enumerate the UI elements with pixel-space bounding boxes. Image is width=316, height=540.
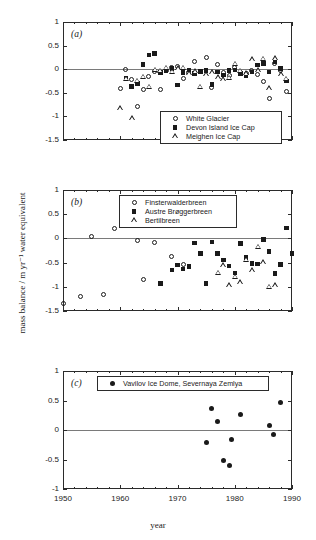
y-tick-mark: [63, 238, 67, 239]
x-tick-major: [292, 485, 293, 489]
legend-label: Bertilbreen: [145, 216, 180, 225]
triangle-marker: [249, 57, 255, 62]
filled-circle-marker: [227, 463, 232, 468]
y-tick-label: -1: [27, 485, 59, 493]
square-marker: [192, 241, 197, 246]
x-tick-minor: [74, 309, 75, 311]
y-tick-label: 0: [27, 426, 59, 434]
y-tick-mark: [63, 140, 67, 141]
legend-marker-filled-square-icon: [123, 207, 145, 216]
x-tick-minor-top: [212, 371, 213, 373]
x-tick-major: [235, 307, 236, 311]
x-tick-minor-top: [223, 190, 224, 192]
square-marker: [215, 251, 220, 256]
x-tick-minor: [97, 487, 98, 489]
triangle-marker: [232, 274, 238, 279]
x-tick-minor: [212, 309, 213, 311]
x-tick-major: [178, 485, 179, 489]
square-marker: [152, 51, 157, 56]
circle-marker: [135, 238, 140, 243]
x-tick-minor: [109, 487, 110, 489]
x-tick-major-top: [63, 371, 64, 375]
triangle-marker: [146, 84, 152, 89]
y-tick-label: 1: [27, 367, 59, 375]
x-tick-minor: [166, 487, 167, 489]
y-tick-mark-right: [288, 46, 292, 47]
legend-label: Devon Island Ice Cap: [186, 123, 255, 132]
square-marker: [227, 68, 232, 73]
x-tick-minor: [281, 309, 282, 311]
y-tick-mark: [63, 430, 67, 431]
panel-c-legend: Vavilov Ice Dome, Severnaya Zemlya: [97, 376, 269, 391]
x-tick-major-top: [292, 22, 293, 26]
panel-a-legend: White GlacierDevon Island Ice CapMeighen…: [160, 111, 282, 144]
x-tick-minor: [74, 138, 75, 140]
y-tick-mark: [63, 287, 67, 288]
x-tick-minor-top: [281, 22, 282, 24]
x-tick-major: [178, 307, 179, 311]
triangle-marker: [215, 270, 221, 275]
triangle-marker: [140, 74, 146, 79]
triangle-marker: [129, 116, 135, 121]
x-tick-minor: [281, 487, 282, 489]
square-marker: [210, 82, 215, 87]
y-tick-mark: [63, 311, 67, 312]
triangle-marker: [243, 257, 249, 262]
triangle-marker: [192, 69, 198, 74]
square-marker: [238, 241, 243, 246]
x-tick-major-top: [120, 371, 121, 375]
x-tick-minor-top: [258, 190, 259, 192]
square-marker: [250, 70, 255, 75]
square-marker: [261, 237, 266, 242]
square-marker: [267, 249, 272, 254]
filled-circle-marker: [278, 400, 283, 405]
x-tick-minor-top: [74, 22, 75, 24]
x-tick-minor-top: [189, 371, 190, 373]
square-marker: [198, 69, 203, 74]
x-tick-minor-top: [212, 190, 213, 192]
legend-label: Finsterwalderbreen: [145, 198, 207, 207]
y-tick-mark: [63, 69, 67, 70]
circle-marker: [181, 76, 186, 81]
triangle-marker: [243, 71, 249, 76]
y-tick-label: 0.5: [27, 397, 59, 405]
y-tick-mark-right: [288, 287, 292, 288]
x-tick-minor: [246, 487, 247, 489]
legend-marker-open-triangle-icon: [164, 132, 186, 141]
filled-circle-marker: [204, 440, 209, 445]
x-tick-minor: [143, 487, 144, 489]
y-tick-mark-right: [288, 140, 292, 141]
square-marker: [181, 70, 186, 75]
filled-circle-marker: [215, 419, 220, 424]
square-marker: [250, 261, 255, 266]
x-tick-minor-top: [189, 22, 190, 24]
circle-marker: [135, 104, 140, 109]
y-tick-label: 1: [27, 186, 59, 194]
x-tick-major-top: [292, 190, 293, 194]
circle-marker: [118, 86, 123, 91]
square-marker: [233, 68, 238, 73]
y-axis-label: mass balance / m yr⁻¹ water equivalent: [17, 178, 27, 348]
x-tick-minor: [223, 487, 224, 489]
y-tick-label: -1: [27, 283, 59, 291]
square-marker: [278, 66, 283, 71]
square-marker: [187, 264, 192, 269]
x-tick-minor: [132, 487, 133, 489]
y-tick-label: 0.5: [27, 210, 59, 218]
y-tick-label: 0.5: [27, 42, 59, 50]
square-marker: [261, 61, 266, 66]
x-tick-minor-top: [200, 190, 201, 192]
x-tick-minor-top: [166, 190, 167, 192]
circle-marker: [261, 79, 266, 84]
x-tick-minor-top: [258, 371, 259, 373]
y-tick-mark-right: [288, 263, 292, 264]
x-tick-minor: [189, 487, 190, 489]
x-tick-minor-top: [223, 22, 224, 24]
x-tick-minor-top: [86, 371, 87, 373]
circle-marker: [101, 292, 106, 297]
y-tick-label: -1.5: [27, 136, 59, 144]
x-tick-minor-top: [246, 371, 247, 373]
panel-b-letter: (b): [71, 197, 82, 207]
square-marker: [147, 53, 152, 58]
triangle-marker: [226, 283, 232, 288]
